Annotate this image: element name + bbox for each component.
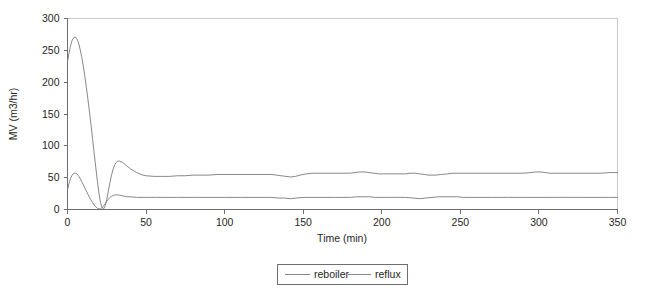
- y-tick-label: 150: [42, 108, 60, 120]
- chart-container: 050100150200250300 050100150200250300350…: [0, 0, 649, 297]
- x-tick-label: 300: [530, 216, 548, 228]
- chart-legend: reboiler reflux: [278, 265, 408, 285]
- x-tick-label: 50: [140, 216, 152, 228]
- line-chart: 050100150200250300 050100150200250300350…: [0, 0, 649, 297]
- x-tick-label: 200: [373, 216, 391, 228]
- y-tick-label: 100: [42, 139, 60, 151]
- y-tick-label: 250: [42, 44, 60, 56]
- x-tick-label: 250: [452, 216, 470, 228]
- legend-label-reflux: reflux: [375, 268, 401, 280]
- legend-label-reboiler: reboiler: [314, 268, 350, 280]
- x-tick-label: 100: [216, 216, 234, 228]
- y-tick-label: 0: [54, 203, 60, 215]
- x-axis-title: Time (min): [317, 232, 367, 244]
- y-tick-label: 200: [42, 76, 60, 88]
- x-tick-label: 350: [609, 216, 627, 228]
- x-tick-label: 150: [294, 216, 312, 228]
- y-axis-title: MV (m3/hr): [7, 88, 19, 141]
- chart-background: [0, 0, 649, 297]
- y-tick-label: 50: [48, 171, 60, 183]
- y-tick-label: 300: [42, 12, 60, 24]
- x-tick-label: 0: [65, 216, 71, 228]
